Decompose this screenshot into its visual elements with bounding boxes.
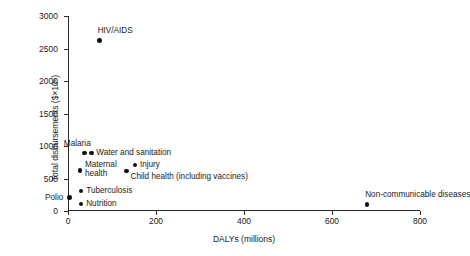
y-axis-title: Total disbursements ($×10⁶) [50, 75, 60, 181]
data-point-label: Water and sanitation [96, 149, 171, 158]
y-tick: 2000 [64, 81, 68, 82]
y-tick-label: 500 [44, 174, 58, 183]
y-tick: 500 [64, 179, 68, 180]
x-tick-label: 200 [149, 217, 163, 226]
data-point-label: Tuberculosis [86, 187, 132, 196]
data-point-label: HIV/AIDS [98, 27, 133, 36]
data-point-label: Child health (including vaccines) [131, 173, 248, 182]
y-tick-label: 1500 [39, 109, 58, 118]
data-point-label: Non-communicable diseases [365, 191, 470, 200]
y-tick-label: 2000 [39, 77, 58, 86]
x-axis-title: DALYs (millions) [68, 234, 420, 244]
data-point-marker[interactable] [97, 38, 102, 43]
x-tick-label: 0 [66, 217, 71, 226]
data-point-marker[interactable] [82, 151, 87, 156]
data-point-label: Malaria [64, 140, 91, 149]
y-tick-label: 0 [53, 207, 58, 216]
data-point-marker[interactable] [67, 195, 72, 200]
data-point-marker[interactable] [365, 202, 370, 207]
x-tick [244, 211, 245, 215]
data-point-marker[interactable] [79, 189, 84, 194]
data-point-marker[interactable] [78, 168, 83, 173]
data-point-label: Injury [140, 161, 160, 170]
data-point-marker[interactable] [89, 151, 94, 156]
data-point-marker[interactable] [79, 202, 84, 207]
plot-area: 050010001500200025003000 0200400600800 H… [68, 16, 420, 211]
y-tick: 3000 [64, 16, 68, 17]
y-tick: 1500 [64, 114, 68, 115]
y-tick: 2500 [64, 49, 68, 50]
y-tick-label: 1000 [39, 142, 58, 151]
x-tick-label: 600 [325, 217, 339, 226]
y-tick-label: 3000 [39, 12, 58, 21]
x-tick-label: 400 [237, 217, 251, 226]
x-tick [156, 211, 157, 215]
x-tick [420, 211, 421, 215]
data-point-marker[interactable] [124, 169, 129, 174]
data-point-label: Polio [45, 194, 63, 203]
y-axis-line [68, 16, 69, 211]
data-point-label: Nutrition [86, 200, 117, 209]
x-tick [332, 211, 333, 215]
data-point-marker[interactable] [133, 163, 138, 168]
x-tick-label: 800 [413, 217, 427, 226]
x-tick [68, 211, 69, 215]
y-tick-label: 2500 [39, 44, 58, 53]
